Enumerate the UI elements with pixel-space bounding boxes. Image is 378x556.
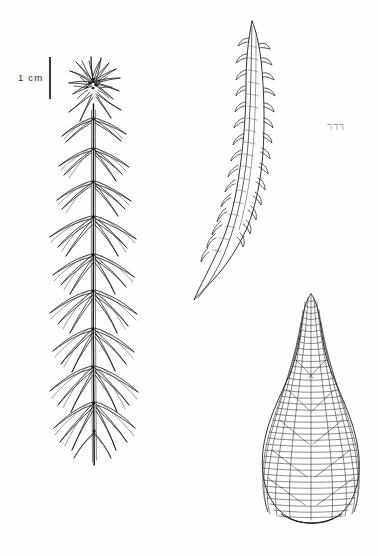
figure-whole-plant-habit [50,57,138,465]
figure-leaf-areolation [262,294,359,523]
annotation-mark: דדר [327,121,344,131]
scale-bar: 1 cm [18,56,51,100]
illustration-plate: 1 cm דדר [0,0,378,556]
apical-rosette [69,57,121,121]
scale-bar-label: 1 cm [18,73,49,83]
vertical-rule-icon [49,57,51,99]
figure-layer [0,0,378,556]
figure-single-leaf-lateral [194,21,275,300]
